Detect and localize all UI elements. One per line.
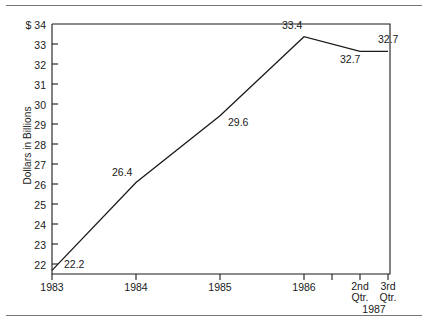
data-label-1986: 33.4: [282, 19, 302, 31]
data-label-2nd-qtr: 32.7: [340, 53, 360, 65]
x-tick-label-1985: 1985: [200, 281, 240, 293]
chart-figure: Dollars in Billions $ 34 33 32 31 30 29 …: [0, 0, 428, 322]
x-tick-label-3rd-qtr-line2: Qtr.: [370, 292, 406, 303]
x-tick-label-1984: 1984: [116, 281, 156, 293]
plot-area: [0, 0, 428, 322]
x-tick-label-3rd-qtr: 3rd Qtr.: [370, 281, 406, 303]
data-series-line: [52, 37, 388, 271]
x-tick-label-1986: 1986: [284, 281, 324, 293]
x-axis-group-label-1987: 1987: [356, 303, 392, 315]
x-tick-label-1983: 1983: [32, 281, 72, 293]
x-axis-ticks: [52, 274, 388, 280]
data-label-1985: 29.6: [228, 116, 248, 128]
data-label-1984: 26.4: [112, 166, 132, 178]
data-label-3rd-qtr: 32.7: [378, 33, 398, 45]
y-axis-ticks: [52, 44, 58, 264]
data-label-1983: 22.2: [64, 258, 84, 270]
